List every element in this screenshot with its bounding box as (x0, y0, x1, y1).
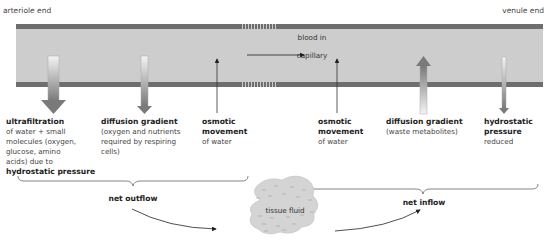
ultrafiltration-line: of water + small (6, 127, 65, 136)
osmotic-title: osmotic (202, 117, 236, 126)
diffusion-gradient-title: diffusion gradient (386, 117, 463, 126)
net-outflow-text: net outflow (109, 194, 158, 203)
ultrafiltration-title: ultrafiltration (6, 117, 64, 126)
movement-title: movement (202, 127, 247, 136)
osmotic-line: of water (318, 137, 348, 146)
tissue-fluid-label: tissue fluid (255, 206, 315, 215)
osmotic-line: of water (202, 137, 232, 146)
diffusion-gradient-venous-label: diffusion gradient (waste metabolites) (386, 117, 486, 137)
inflow-brace (308, 184, 538, 194)
diffusion-line: (oxygen and nutrients (101, 127, 181, 136)
diffusion-up-arrow-icon (416, 56, 431, 114)
osmotic-movement-venous-label: osmotic movement of water (318, 117, 378, 147)
diffusion-line: cells) (101, 147, 120, 156)
net-inflow-text: net inflow (403, 198, 446, 207)
outflow-curve-arrow-icon (132, 209, 216, 229)
movement-title: movement (318, 127, 363, 136)
tissue-fluid-blob (250, 176, 318, 234)
ultrafiltration-line: acids) due to (6, 157, 53, 166)
pressure-title: pressure (484, 127, 522, 136)
diffusion-line: (waste metabolites) (386, 127, 458, 136)
net-outflow-label: net outflow (98, 194, 168, 204)
inflow-curve-arrow-icon (335, 210, 420, 231)
diffusion-down-arrow-icon (137, 56, 152, 114)
outflow-brace (18, 176, 248, 186)
osmotic-title: osmotic (318, 117, 352, 126)
hydrostatic-pressure-reduced-label: hydrostatic pressure reduced (484, 117, 548, 147)
osmotic-movement-arterial-label: osmotic movement of water (202, 117, 262, 147)
diffusion-line: required by respiring (101, 137, 176, 146)
diffusion-gradient-title: diffusion gradient (101, 117, 178, 126)
net-inflow-label: net inflow (389, 198, 459, 208)
diffusion-gradient-arterial-label: diffusion gradient (oxygen and nutrients… (101, 117, 201, 157)
ultrafiltration-arrow-icon (41, 56, 66, 114)
ultrafiltration-line: molecules (oxygen, (6, 137, 76, 146)
hydrostatic-arrow-icon (499, 57, 509, 114)
hydrostatic-pressure-emphasis: hydrostatic pressure (6, 167, 95, 176)
hydrostatic-title: hydrostatic (484, 117, 533, 126)
hydrostatic-line: reduced (484, 137, 513, 146)
ultrafiltration-line: glucose, amino (6, 147, 61, 156)
